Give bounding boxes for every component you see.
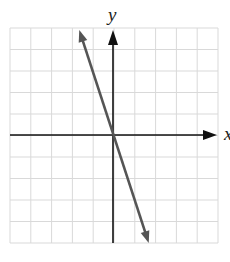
x-axis-label: x	[224, 124, 230, 143]
y-axis-label: y	[108, 5, 116, 24]
x-axis-arrow-icon	[203, 130, 217, 140]
line-arrow-bottom-icon	[141, 230, 150, 243]
y-axis-arrow-icon	[108, 30, 118, 45]
line-arrow-top-icon	[79, 30, 88, 43]
coordinate-plane	[0, 0, 230, 262]
